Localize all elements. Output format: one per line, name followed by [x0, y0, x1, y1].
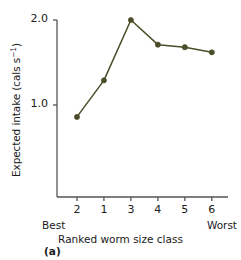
data-point-marker — [209, 50, 214, 55]
x-axis-left-note: Best — [42, 219, 65, 231]
x-tick-label: 5 — [175, 203, 195, 216]
data-point-marker — [74, 114, 79, 119]
x-tick-label: 3 — [121, 203, 141, 216]
chart-plot-area — [0, 0, 241, 260]
data-point-marker — [155, 42, 160, 47]
figure-panel: Expected intake (cals s−1) Ranked worm s… — [0, 0, 241, 260]
x-tick-label: 2 — [67, 203, 87, 216]
data-point-marker — [182, 45, 187, 50]
y-tick-label: 2.0 — [0, 12, 48, 25]
x-tick-label: 1 — [94, 203, 114, 216]
x-tick-label: 6 — [202, 203, 222, 216]
data-point-marker — [101, 78, 106, 83]
x-tick-label: 4 — [148, 203, 168, 216]
y-axis-title: Expected intake (cals s−1) — [10, 20, 22, 200]
data-line — [77, 20, 212, 117]
x-axis-right-note: Worst — [207, 219, 237, 231]
y-tick-label: 1.0 — [0, 97, 48, 110]
x-axis-title: Ranked worm size class — [0, 233, 241, 245]
data-point-marker — [128, 17, 133, 22]
panel-label: (a) — [44, 245, 61, 257]
y-axis-title-text: Expected intake (cals s−1) — [10, 43, 22, 177]
